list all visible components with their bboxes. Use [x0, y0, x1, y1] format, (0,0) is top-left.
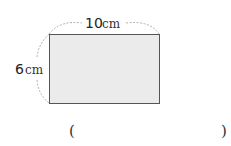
height-arc-bottom	[37, 80, 49, 103]
height-label-number: 6	[15, 61, 24, 77]
answer-blank[interactable]	[80, 122, 218, 140]
height-label-unit: cm	[25, 63, 44, 77]
width-arc-left	[49, 22, 82, 34]
width-label-number: 10	[85, 15, 103, 31]
rectangle	[50, 35, 160, 104]
width-label-unit: cm	[102, 17, 121, 31]
height-arc-top	[37, 34, 49, 57]
width-arc-right	[126, 22, 159, 34]
answer-close-paren: )	[221, 122, 227, 140]
answer-open-paren: (	[69, 122, 75, 140]
